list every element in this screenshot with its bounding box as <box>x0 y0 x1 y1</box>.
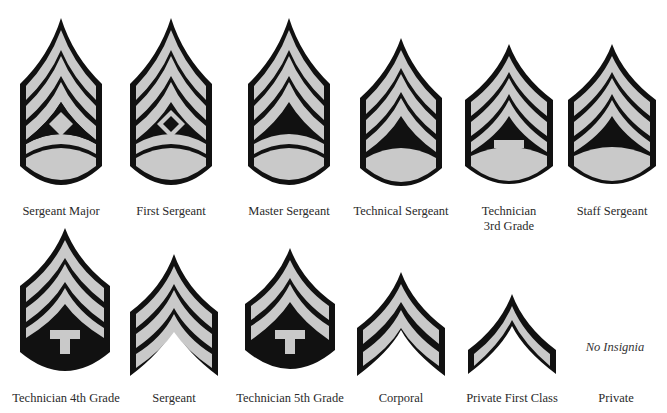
corporal-label: Corporal <box>379 391 423 406</box>
sergeant-label: Sergeant <box>152 391 196 406</box>
staff-sergeant-label: Staff Sergeant <box>577 204 648 219</box>
technician-5th-grade-label: Technician 5th Grade <box>236 391 343 406</box>
first-sergeant-insignia <box>128 16 214 194</box>
technician-3rd-grade-insignia <box>463 42 555 192</box>
technical-sergeant-insignia <box>358 36 444 192</box>
no-insignia-note: No Insignia <box>586 340 645 355</box>
technician-4th-grade-insignia <box>18 226 112 378</box>
technician-3rd-grade-label-line-1: Technician <box>482 204 537 219</box>
master-sergeant-label: Master Sergeant <box>248 204 329 219</box>
sergeant-major-insignia <box>18 16 104 194</box>
technician-3rd-grade-label: Technician 3rd Grade <box>482 204 537 234</box>
corporal-insignia <box>355 270 447 378</box>
master-sergeant-insignia <box>246 16 332 194</box>
private-first-class-insignia <box>466 292 558 376</box>
private-label: Private <box>598 391 633 406</box>
technician-4th-grade-label: Technician 4th Grade <box>12 391 119 406</box>
technical-sergeant-label: Technical Sergeant <box>353 204 448 219</box>
private-first-class-label: Private First Class <box>466 391 558 406</box>
sergeant-major-label: Sergeant Major <box>22 204 99 219</box>
staff-sergeant-insignia <box>566 42 658 192</box>
first-sergeant-label: First Sergeant <box>136 204 206 219</box>
technician-5th-grade-insignia <box>243 246 337 376</box>
sergeant-insignia <box>128 252 220 378</box>
technician-3rd-grade-label-line-2: 3rd Grade <box>482 219 537 234</box>
